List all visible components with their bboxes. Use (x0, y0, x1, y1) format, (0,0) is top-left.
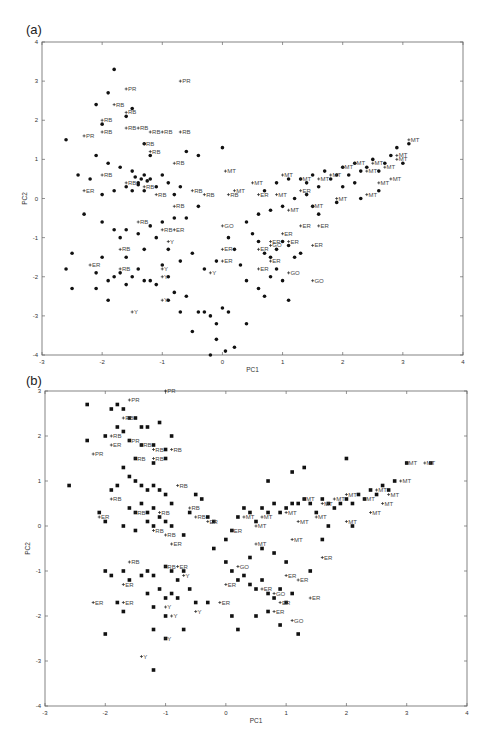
data-point (224, 538, 228, 542)
point-label: RB (182, 129, 190, 135)
point-label: ER (260, 246, 269, 252)
data-point (266, 592, 270, 596)
data-point (317, 185, 321, 189)
data-point (281, 279, 285, 283)
data-point (269, 275, 273, 279)
y-tick-label: -3 (36, 658, 42, 664)
point-label: ER (302, 223, 311, 229)
data-point (133, 175, 137, 179)
data-point (248, 583, 252, 587)
y-tick-label: 0 (38, 523, 42, 529)
data-point (160, 220, 164, 224)
point-label: MT (402, 478, 411, 484)
data-point (389, 154, 393, 158)
data-point (272, 551, 276, 555)
data-point (257, 240, 261, 244)
data-point (118, 236, 122, 240)
data-point (160, 173, 164, 177)
point-label: RB (198, 514, 206, 520)
data-point (173, 291, 177, 295)
point-label: RB (164, 129, 172, 135)
point-label: MT (372, 510, 381, 516)
data-point (203, 267, 207, 271)
point-label: MT (427, 460, 436, 466)
point-label: MT (246, 514, 255, 520)
data-point (347, 173, 351, 177)
data-point (323, 169, 327, 173)
data-point (173, 216, 177, 220)
data-point (369, 488, 373, 492)
x-axis-label: PC1 (246, 366, 259, 373)
point-label: MT (411, 137, 420, 143)
data-point (142, 279, 146, 283)
y-tick-label: 2 (35, 117, 39, 123)
point-label: MT (387, 164, 396, 170)
point-label: GO (240, 564, 250, 570)
data-point (188, 511, 192, 515)
data-point (134, 529, 138, 533)
point-label: ER (320, 223, 329, 229)
data-point (118, 165, 122, 169)
data-point (215, 322, 219, 326)
point-label: RB (155, 447, 163, 453)
data-point (293, 197, 297, 201)
data-point (146, 520, 150, 524)
point-label: MT (288, 510, 297, 516)
data-point (182, 628, 186, 632)
data-point (321, 538, 325, 542)
point-label: GO (276, 591, 286, 597)
data-point (209, 314, 213, 318)
y-tick-label: 3 (38, 388, 42, 394)
x-tick-label: 1 (284, 710, 288, 716)
data-point (122, 524, 126, 528)
data-point (266, 610, 270, 614)
point-label: RB (131, 559, 139, 565)
plot-frame (45, 391, 467, 706)
point-label: MT (254, 180, 263, 186)
point-label: RB (161, 510, 169, 516)
data-point (345, 457, 349, 461)
data-point (311, 173, 315, 177)
data-point (278, 623, 282, 627)
x-tick-label: 3 (405, 710, 409, 716)
x-tick-label: -3 (39, 359, 45, 365)
data-point (224, 560, 228, 564)
data-point (136, 183, 140, 187)
data-point (170, 569, 174, 573)
data-point (152, 461, 156, 465)
data-point (146, 511, 150, 515)
data-point (112, 189, 116, 193)
y-tick-label: -4 (36, 703, 42, 709)
point-label: Y (164, 274, 168, 280)
data-point (197, 205, 201, 209)
data-point (203, 310, 207, 314)
point-label: RB (113, 433, 121, 439)
point-label: ER (260, 192, 269, 198)
point-label: ER (302, 188, 311, 194)
data-point (254, 614, 258, 618)
data-point (122, 430, 126, 434)
data-point (170, 524, 174, 528)
y-tick-label: 1 (35, 156, 39, 162)
data-point (242, 574, 246, 578)
data-point (221, 306, 225, 310)
data-point (278, 511, 282, 515)
data-point (359, 197, 363, 201)
point-label: MT (236, 188, 245, 194)
point-label: MT (324, 501, 333, 507)
data-point (377, 189, 381, 193)
point-label: MT (258, 523, 267, 529)
point-label: RB (116, 102, 124, 108)
data-point (158, 515, 162, 519)
point-label: MT (393, 176, 402, 182)
data-point (164, 596, 168, 600)
data-point (106, 298, 110, 302)
data-point (158, 421, 162, 425)
data-point (185, 150, 189, 154)
point-label: MT (320, 176, 329, 182)
data-point (212, 547, 216, 551)
point-label: ER (282, 600, 291, 606)
data-point (122, 466, 126, 470)
data-point (128, 506, 132, 510)
y-tick-label: -4 (33, 352, 39, 358)
